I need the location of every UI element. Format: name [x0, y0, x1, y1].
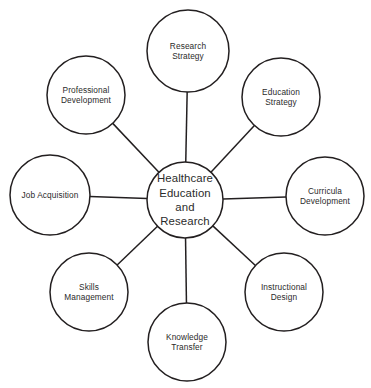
- node-circle-research-strategy[interactable]: [147, 10, 229, 92]
- connector-instructional-design: [213, 226, 256, 266]
- node-circle-instructional-design[interactable]: [245, 253, 323, 331]
- node-circle-professional-development[interactable]: [47, 56, 125, 134]
- node-circle-job-acquisition[interactable]: [10, 155, 90, 235]
- connector-research-strategy: [186, 92, 187, 162]
- node-circle-curricula-development[interactable]: [286, 157, 364, 235]
- connector-knowledge-transfer: [186, 238, 187, 303]
- connector-professional-development: [113, 123, 159, 172]
- diagram-shapes-layer: [0, 0, 371, 388]
- node-circle-skills-management[interactable]: [50, 253, 128, 331]
- connector-education-strategy: [211, 126, 255, 173]
- node-circle-knowledge-transfer[interactable]: [148, 303, 226, 381]
- connector-skills-management: [117, 226, 157, 265]
- node-circles-group: [10, 10, 364, 381]
- connector-curricula-development: [223, 197, 286, 199]
- center-node-circle-healthcare-education-and-research[interactable]: [147, 162, 223, 238]
- node-circle-education-strategy[interactable]: [242, 58, 320, 136]
- connector-job-acquisition: [90, 196, 147, 198]
- radial-diagram: Research StrategyEducation StrategyCurri…: [0, 0, 371, 388]
